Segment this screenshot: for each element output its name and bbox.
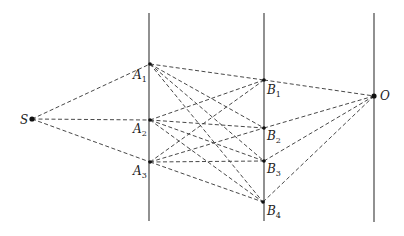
ray-A1-B1 bbox=[150, 64, 264, 80]
screens-group bbox=[149, 13, 374, 222]
ray-S-A2 bbox=[32, 119, 150, 120]
ray-A3-B3 bbox=[150, 161, 264, 162]
ray-A2-B4 bbox=[150, 120, 263, 202]
point-B1 bbox=[262, 78, 266, 82]
point-O bbox=[371, 93, 376, 98]
diagram-svg: SA1A2A3B1B2B3B4O bbox=[0, 0, 404, 236]
label-S: S bbox=[20, 113, 28, 127]
points-group bbox=[29, 62, 376, 204]
label-B3: B3 bbox=[266, 162, 281, 178]
point-A2 bbox=[148, 118, 152, 122]
ray-A2-B2 bbox=[150, 120, 264, 128]
ray-diagram: SA1A2A3B1B2B3B4O bbox=[0, 0, 404, 236]
ray-A1-B3 bbox=[150, 64, 264, 161]
label-A3: A3 bbox=[132, 164, 147, 180]
point-A1 bbox=[148, 62, 152, 66]
label-O: O bbox=[380, 89, 390, 103]
ray-A3-B2 bbox=[150, 128, 264, 162]
point-B2 bbox=[262, 126, 266, 130]
ray-B4-O bbox=[263, 96, 374, 202]
point-S bbox=[29, 116, 34, 121]
point-A3 bbox=[148, 160, 152, 164]
point-B4 bbox=[261, 200, 265, 204]
ray-A3-B1 bbox=[150, 80, 264, 162]
label-A2: A2 bbox=[132, 122, 147, 138]
rays-group bbox=[32, 64, 374, 202]
ray-A2-B1 bbox=[150, 80, 264, 120]
ray-A2-B3 bbox=[150, 120, 264, 161]
label-B4: B4 bbox=[266, 204, 281, 220]
label-A1: A1 bbox=[132, 68, 147, 84]
label-B1: B1 bbox=[266, 83, 281, 99]
ray-A1-B2 bbox=[150, 64, 264, 128]
point-B3 bbox=[262, 159, 266, 163]
label-B2: B2 bbox=[266, 129, 281, 145]
labels-group: SA1A2A3B1B2B3B4O bbox=[20, 68, 390, 220]
ray-B3-O bbox=[264, 96, 374, 161]
